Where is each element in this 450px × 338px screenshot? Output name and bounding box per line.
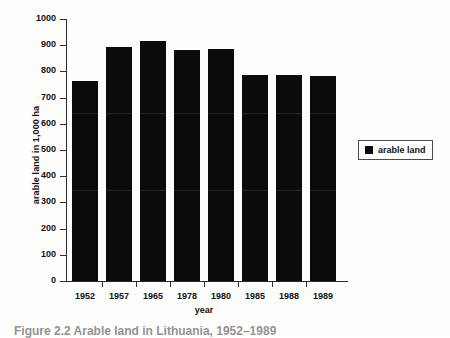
y-axis-tick — [60, 98, 67, 99]
y-axis-tick — [60, 124, 67, 125]
x-axis-label-1989: 1989 — [306, 291, 340, 301]
plot-area: 10009008007006005004003002001000 1952195… — [68, 19, 340, 281]
legend-swatch-arable-land — [365, 146, 373, 154]
legend: arable land — [358, 140, 433, 160]
x-axis-label-1985: 1985 — [238, 291, 272, 301]
y-axis-tick — [60, 45, 67, 46]
y-axis-tick — [60, 202, 67, 203]
y-axis-tick — [60, 176, 67, 177]
y-axis-tick — [60, 281, 67, 282]
x-axis-label-1965: 1965 — [136, 291, 170, 301]
y-axis-tick-label: 600 — [16, 118, 56, 128]
y-axis-tick-label: 700 — [16, 92, 56, 102]
x-axis-tick — [136, 281, 137, 287]
bar-1980 — [208, 49, 234, 281]
x-axis-label-1988: 1988 — [272, 291, 306, 301]
bar-1965 — [140, 41, 166, 281]
x-axis-label-1957: 1957 — [102, 291, 136, 301]
x-axis-label-1980: 1980 — [204, 291, 238, 301]
x-axis-tick — [170, 281, 171, 287]
legend-label-arable-land: arable land — [378, 145, 426, 155]
y-axis-tick — [60, 71, 67, 72]
y-axis-tick-label: 900 — [16, 39, 56, 49]
y-axis-tick-label: 0 — [16, 275, 56, 285]
y-axis-tick-label: 100 — [16, 249, 56, 259]
y-axis-tick — [60, 255, 67, 256]
y-axis-tick-label: 400 — [16, 170, 56, 180]
bar-1985 — [242, 75, 268, 281]
bar-1988 — [276, 75, 302, 281]
bar-1978 — [174, 50, 200, 281]
figure-caption: Figure 2.2 Arable land in Lithuania, 195… — [14, 324, 276, 338]
x-axis-label-1978: 1978 — [170, 291, 204, 301]
y-axis-tick-label: 1000 — [16, 13, 56, 23]
x-axis-label-1952: 1952 — [68, 291, 102, 301]
y-axis-tick — [60, 229, 67, 230]
bar-1957 — [106, 47, 132, 281]
x-axis-title: year — [68, 305, 340, 315]
x-axis-tick — [238, 281, 239, 287]
y-axis-tick-label: 300 — [16, 196, 56, 206]
x-axis-tick — [306, 281, 307, 287]
bar-1952 — [72, 81, 98, 281]
y-axis-tick-label: 500 — [16, 144, 56, 154]
y-axis-tick — [60, 19, 67, 20]
y-axis-tick-label: 200 — [16, 223, 56, 233]
x-axis-tick — [272, 281, 273, 287]
x-axis-tick — [204, 281, 205, 287]
x-axis-tick — [102, 281, 103, 287]
bar-1989 — [310, 76, 336, 281]
y-axis-tick — [60, 150, 67, 151]
y-axis-tick-label: 800 — [16, 65, 56, 75]
